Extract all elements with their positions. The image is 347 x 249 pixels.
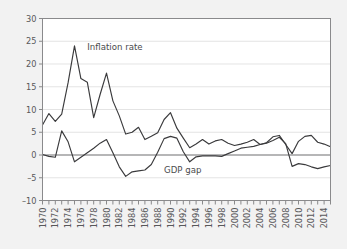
x-axis-tick-label: 2000 (230, 208, 240, 229)
y-axis-tick-label: 15 (26, 82, 36, 92)
x-axis-tick-label: 2014 (319, 208, 329, 229)
x-axis-tick-label: 1984 (127, 208, 137, 229)
x-axis-tick-label: 1988 (153, 208, 163, 229)
y-axis-tick-label: –5 (27, 173, 36, 183)
x-axis-tick-label: 1998 (217, 208, 227, 229)
x-axis-tick-label: 2004 (255, 208, 265, 229)
x-axis-tick-label: 1970 (38, 208, 48, 229)
y-axis-tick-label: 10 (26, 105, 36, 115)
y-axis-tick-label: 25 (26, 36, 36, 46)
chart-plot-area: 302520151050–5–10 1970197219741976197819… (0, 0, 347, 249)
x-axis-tick-label: 1976 (76, 208, 86, 229)
x-axis-tick-label: 1990 (166, 208, 176, 229)
x-axis-tick-label: 1996 (204, 208, 214, 229)
x-axis-tick-label: 2008 (281, 208, 291, 229)
x-axis-tick-label: 1978 (89, 208, 99, 229)
x-axis-tick-label: 2006 (268, 208, 278, 229)
x-axis-tick-label: 1980 (102, 208, 112, 229)
series-label-inflation-rate: Inflation rate (87, 42, 142, 52)
x-axis-tick-label: 1994 (191, 208, 201, 229)
chart-figure: 302520151050–5–10 1970197219741976197819… (0, 0, 347, 249)
y-axis-tick-label: –10 (22, 196, 37, 206)
y-axis-tick-label: 0 (31, 150, 36, 160)
y-axis-tick-label: 30 (26, 14, 36, 24)
line-chart-svg: 302520151050–5–10 1970197219741976197819… (0, 0, 347, 249)
x-axis-tick-label: 2010 (294, 208, 304, 229)
x-axis-tick-label: 1972 (50, 208, 60, 229)
y-axis-tick-label: 20 (26, 59, 36, 69)
x-axis-tick-label: 1986 (140, 208, 150, 229)
x-axis-tick-label: 1992 (178, 208, 188, 229)
x-axis-tick-label: 1974 (63, 208, 73, 229)
x-axis-tick-label: 2002 (242, 208, 252, 229)
y-axis-tick-label: 5 (31, 127, 36, 137)
x-axis-tick-labels: 1970197219741976197819801982198419861988… (38, 208, 330, 229)
x-axis-tick-label: 2012 (306, 208, 316, 229)
series-label-gdp-gap: GDP gap (164, 165, 201, 175)
x-axis-tick-label: 1982 (114, 208, 124, 229)
